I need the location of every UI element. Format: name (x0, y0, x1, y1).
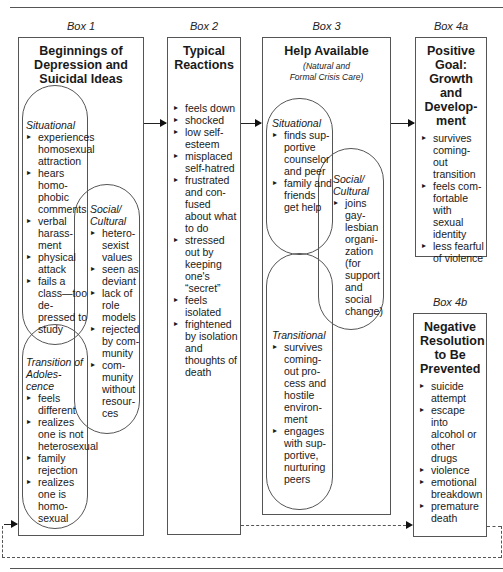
arrow-box2-to-box3 (241, 123, 261, 124)
list-item: hears homo-phobic comments (26, 167, 88, 215)
list-item: feels different (26, 392, 88, 416)
box1-transition-title: Transition of Adoles-cence (26, 356, 88, 392)
feedback-loop-top-right (487, 526, 501, 527)
list-item: com-munity without resour-ces (90, 359, 140, 419)
box4b-label: Box 4b (413, 296, 487, 308)
list-item: shocked (173, 114, 238, 126)
list-item: less fearful of violence (421, 240, 484, 264)
top-rule (10, 7, 503, 8)
box2-label: Box 2 (167, 20, 241, 32)
box3-transitional: Transitional survives coming-out pro-ces… (272, 329, 332, 485)
list-item: rejected by com-munity (90, 323, 140, 359)
box4a-title: Positive Goal: Growth and Develop-ment (416, 44, 486, 128)
box1-title: Beginnings of Depression and Suicidal Id… (19, 44, 143, 86)
box4b-title: Negative Resolution to Be Prevented (414, 320, 486, 376)
box3-title: Help Available (263, 44, 390, 58)
box1-situational-title: Situational (26, 119, 88, 131)
list-item: premature death (419, 500, 484, 524)
box3-label: Box 3 (262, 20, 391, 32)
box1-social: Social/ Cultural hetero-sexist values se… (90, 203, 140, 419)
box2: Typical Reactions feels down shocked low… (167, 37, 241, 535)
list-item: experiences homosexual attraction (26, 131, 88, 167)
box3-social: Social/ Cultural joins gay-lesbian organ… (333, 173, 381, 317)
box4a-label: Box 4a (415, 20, 487, 32)
box4a-list: survives coming-out transition feels com… (421, 132, 484, 264)
list-item: feels isolated (173, 294, 238, 318)
list-item: low self-esteem (173, 126, 238, 150)
list-item: joins gay-lesbian organi-zation (for sup… (333, 197, 381, 317)
list-item: frustrated and con-fused about what to d… (173, 174, 238, 234)
box4b-list: suicide attempt escape into alcohol or o… (419, 380, 484, 524)
box1-situational: Situational experiences homosexual attra… (26, 119, 88, 335)
list-item: verbal harass-ment (26, 215, 88, 251)
arrow-box3-to-box4a (391, 123, 414, 124)
feedback-loop-left (2, 526, 3, 557)
list-item: engages with sup-portive, nurturing peer… (272, 425, 332, 485)
list-item: survives coming-out pro-cess and hostile… (272, 341, 332, 425)
box3-situational-title: Situational (272, 117, 332, 129)
bottom-rule (10, 568, 503, 569)
box3-subtitle: (Natural and Formal Crisis Care) (263, 61, 390, 83)
box3-situational: Situational finds sup-portive counselor … (272, 117, 332, 213)
list-item: family rejection (26, 452, 88, 476)
feedback-arrow-into-box1 (4, 524, 17, 525)
list-item: hetero-sexist values (90, 227, 140, 263)
list-item: stressed out by keeping one's “secret” (173, 234, 238, 294)
list-item: physical attack (26, 251, 88, 275)
box1-transition: Transition of Adoles-cence feels differe… (26, 356, 88, 524)
list-item: survives coming-out transition (421, 132, 484, 180)
box2-list: feels down shocked low self-esteem mispl… (173, 102, 238, 378)
dashed-arrow-to-box4b (241, 525, 406, 526)
feedback-loop-bottom (2, 557, 501, 558)
list-item: violence (419, 464, 484, 476)
dashed-arrow-head-box4b (404, 525, 412, 526)
feedback-loop-right (501, 526, 502, 558)
box3-transitional-title: Transitional (272, 329, 332, 341)
list-item: finds sup-portive counselor and peer (272, 129, 332, 177)
list-item: realizes one is homo-sexual (26, 476, 88, 524)
list-item: feels down (173, 102, 238, 114)
list-item: fails a class—too de-pressed to study (26, 275, 88, 335)
box1-social-title: Social/ Cultural (90, 203, 140, 227)
list-item: emotional breakdown (419, 476, 484, 500)
list-item: family and friends get help (272, 177, 332, 213)
box4a: Positive Goal: Growth and Develop-ment s… (415, 37, 487, 257)
list-item: misplaced self-hatred (173, 150, 238, 174)
box3-social-title: Social/ Cultural (333, 173, 381, 197)
box2-title: Typical Reactions (168, 44, 240, 72)
box4b: Negative Resolution to Be Prevented suic… (413, 313, 487, 537)
list-item: escape into alcohol or other drugs (419, 404, 484, 464)
list-item: frightened by isolation and thoughts of … (173, 318, 238, 378)
list-item: suicide attempt (419, 380, 484, 404)
list-item: seen as deviant (90, 263, 140, 287)
arrow-box1-to-box2 (144, 123, 166, 124)
list-item: feels com-fortable with sexual identity (421, 180, 484, 240)
box1-label: Box 1 (18, 20, 144, 32)
list-item: lack of role models (90, 287, 140, 323)
list-item: realizes one is not heterosexual (26, 416, 88, 452)
